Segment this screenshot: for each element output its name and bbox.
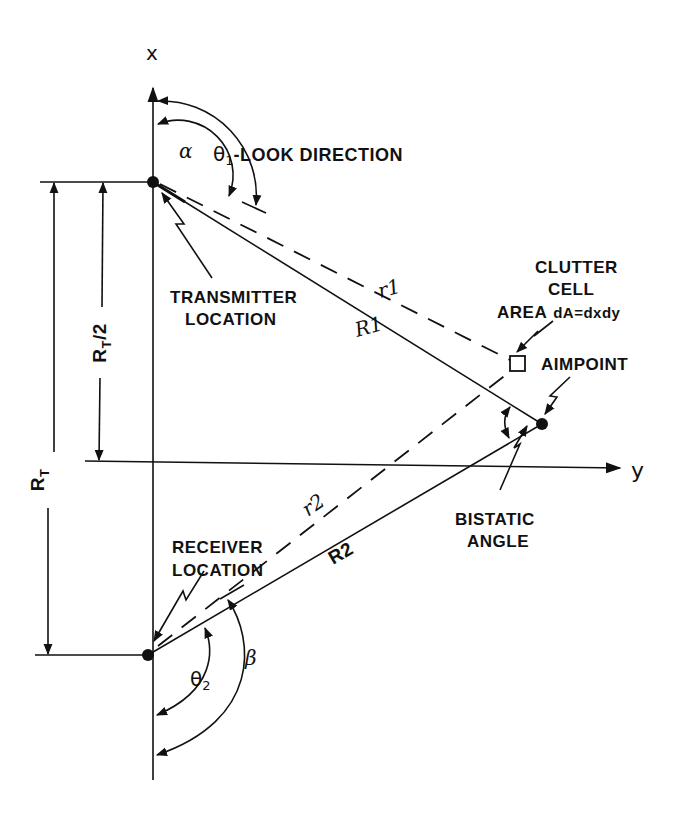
transmitter-label-line2: LOCATION (185, 310, 277, 329)
theta1-label: θ1-LOOK DIRECTION (213, 142, 403, 168)
rt-half-label: RT/2 (89, 323, 114, 363)
aimpoint-pointer (545, 377, 570, 414)
beta-label: β (244, 646, 257, 670)
dimension-rt: RT (27, 182, 153, 655)
aimpoint-label: AIMPOINT (541, 355, 628, 374)
x-axis-label: x (146, 41, 158, 65)
transmitter-label-line1: TRANSMITTER (170, 288, 297, 307)
R1-label: R1 (351, 311, 385, 342)
r1-label: r1 (375, 274, 403, 303)
alpha-label: α (179, 139, 193, 163)
clutter-label-line3: AREAdA=dxdy (497, 303, 621, 322)
r1-clutter-line (160, 184, 510, 360)
clutter-cell-square (510, 356, 525, 371)
svg-text:RT: RT (27, 469, 52, 492)
x-axis: x (146, 41, 158, 780)
bistatic-geometry-diagram: x y RT RT/2 α θ1-LOOK DIR (0, 0, 679, 830)
transmitter-pointer (162, 193, 212, 278)
y-axis-label: y (631, 458, 644, 483)
clutter-label-line1: CLUTTER (535, 258, 618, 277)
receiver-label-line1: RECEIVER (172, 538, 263, 557)
bistatic-label-line1: BISTATIC (455, 510, 535, 529)
bistatic-angle-arc (505, 407, 510, 438)
y-axis: y (85, 458, 644, 483)
receiver-pointer (154, 571, 204, 641)
clutter-pointer (517, 321, 553, 352)
svg-text:RT/2: RT/2 (89, 323, 114, 363)
clutter-label-line2: CELL (548, 280, 594, 299)
R2-label: R2 (325, 538, 357, 569)
receiver-label-line2: LOCATION (172, 561, 264, 580)
bistatic-label-line2: ANGLE (467, 532, 529, 551)
dimension-rt-half: RT/2 (89, 183, 114, 460)
r2-clutter-line (158, 370, 512, 646)
theta2-label: θ2 (190, 667, 211, 693)
rt-label: RT (27, 469, 52, 492)
